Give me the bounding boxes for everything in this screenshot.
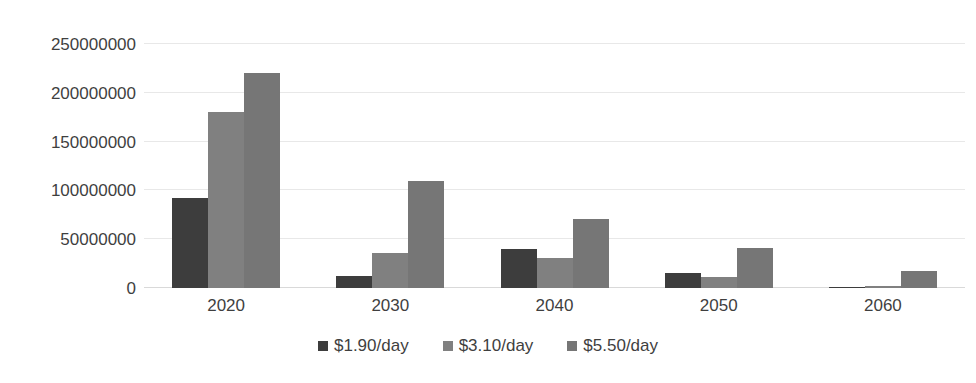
legend-swatch-icon xyxy=(567,341,577,351)
legend-label: $1.90/day xyxy=(334,337,409,354)
bar-group-2040 xyxy=(501,44,609,288)
legend-item[interactable]: $3.10/day xyxy=(443,337,534,354)
bar-2040-series-1[interactable] xyxy=(501,249,537,288)
bar-2020-series-1[interactable] xyxy=(172,198,208,288)
x-axis-tick-label: 2040 xyxy=(475,296,635,316)
bar-2030-series-2[interactable] xyxy=(372,253,408,288)
y-axis-tick-label: 100000000 xyxy=(0,182,136,199)
plot-area xyxy=(144,44,965,288)
bar-chart: 0500000001000000001500000002000000002500… xyxy=(0,0,976,383)
y-axis-tick-label: 150000000 xyxy=(0,133,136,150)
bar-2020-series-2[interactable] xyxy=(208,112,244,288)
y-axis-tick-label: 50000000 xyxy=(0,231,136,248)
legend-label: $5.50/day xyxy=(583,337,658,354)
x-axis-tick-label: 2060 xyxy=(803,296,963,316)
legend-item[interactable]: $1.90/day xyxy=(318,337,409,354)
bar-2060-series-2[interactable] xyxy=(865,286,901,288)
bar-2020-series-3[interactable] xyxy=(244,73,280,288)
bar-2050-series-3[interactable] xyxy=(737,248,773,288)
x-axis: 20202030204020502060 xyxy=(144,296,965,326)
legend-swatch-icon xyxy=(318,341,328,351)
y-axis-tick-label: 250000000 xyxy=(0,36,136,53)
legend-item[interactable]: $5.50/day xyxy=(567,337,658,354)
bar-group-2030 xyxy=(336,44,444,288)
x-axis-tick-label: 2020 xyxy=(146,296,306,316)
bar-group-2050 xyxy=(665,44,773,288)
y-axis-tick-label: 200000000 xyxy=(0,84,136,101)
bar-2060-series-1[interactable] xyxy=(829,287,865,288)
bar-2030-series-3[interactable] xyxy=(408,181,444,288)
legend-swatch-icon xyxy=(443,341,453,351)
bar-2060-series-3[interactable] xyxy=(901,271,937,288)
bar-2040-series-3[interactable] xyxy=(573,219,609,288)
chart-legend: $1.90/day$3.10/day$5.50/day xyxy=(0,337,976,354)
legend-label: $3.10/day xyxy=(459,337,534,354)
x-axis-tick-label: 2030 xyxy=(310,296,470,316)
bar-2050-series-2[interactable] xyxy=(701,277,737,288)
bar-2030-series-1[interactable] xyxy=(336,276,372,288)
y-axis: 0500000001000000001500000002000000002500… xyxy=(0,0,136,383)
x-axis-tick-label: 2050 xyxy=(639,296,799,316)
bar-2050-series-1[interactable] xyxy=(665,273,701,288)
bar-2040-series-2[interactable] xyxy=(537,258,573,288)
y-axis-tick-label: 0 xyxy=(0,280,136,297)
bar-group-2060 xyxy=(829,44,937,288)
bar-group-2020 xyxy=(172,44,280,288)
